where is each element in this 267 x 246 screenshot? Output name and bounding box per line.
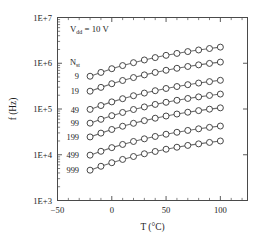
series-label-49: 49 [71, 106, 79, 115]
x-tick-label: 50 [162, 205, 171, 215]
series-marker-19 [207, 60, 213, 66]
series-marker-19 [87, 88, 93, 94]
series-marker-19 [109, 81, 115, 87]
series-marker-999 [98, 163, 104, 169]
series-marker-999 [174, 144, 180, 150]
series-marker-19 [185, 63, 191, 69]
series-marker-19 [120, 77, 126, 83]
series-marker-499 [174, 129, 180, 135]
frequency-vs-temperature-chart: −500501001E+31E+41E+51E+61E+7T (°C)f (Hz… [0, 0, 267, 246]
series-marker-499 [196, 126, 202, 132]
x-tick-label: 100 [214, 205, 227, 215]
series-marker-199 [174, 111, 180, 117]
series-marker-9 [217, 44, 223, 50]
series-marker-49 [196, 80, 202, 86]
series-marker-499 [98, 148, 104, 154]
y-axis-title: f (Hz) [8, 98, 19, 121]
series-label-999: 999 [66, 166, 79, 175]
series-marker-99 [217, 91, 223, 97]
series-marker-99 [87, 120, 93, 126]
series-marker-9 [120, 63, 126, 69]
series-marker-9 [163, 52, 169, 58]
series-group-label: Nst [70, 58, 80, 68]
series-marker-19 [196, 62, 202, 68]
x-axis-title: T (°C) [140, 222, 164, 233]
series-marker-49 [185, 82, 191, 88]
series-marker-999 [141, 151, 147, 157]
series-marker-9 [98, 69, 104, 75]
y-tick-label: 1E+3 [33, 196, 52, 206]
series-marker-199 [207, 106, 213, 112]
series-label-9: 9 [75, 72, 79, 81]
series-marker-49 [152, 88, 158, 94]
series-marker-499 [87, 152, 93, 158]
series-marker-99 [152, 101, 158, 107]
series-marker-499 [217, 123, 223, 129]
series-marker-999 [196, 141, 202, 147]
series-marker-499 [120, 141, 126, 147]
series-marker-49 [174, 84, 180, 90]
series-label-99: 99 [71, 119, 79, 128]
series-marker-999 [217, 138, 223, 144]
x-tick-label: 0 [110, 205, 114, 215]
series-marker-199 [131, 120, 137, 126]
series-marker-999 [152, 148, 158, 154]
series-marker-999 [131, 154, 137, 160]
axes-group: −500501001E+31E+41E+51E+61E+7T (°C)f (Hz… [8, 13, 248, 233]
series-marker-19 [152, 69, 158, 75]
series-marker-9 [109, 66, 115, 72]
series-marker-99 [207, 92, 213, 98]
series-marker-99 [196, 94, 202, 100]
series-marker-999 [87, 167, 93, 173]
series-marker-99 [141, 104, 147, 110]
series-marker-99 [131, 107, 137, 113]
series-marker-19 [131, 75, 137, 81]
series-marker-99 [185, 95, 191, 101]
y-tick-label: 1E+4 [33, 150, 52, 160]
series-marker-499 [131, 138, 137, 144]
series-marker-199 [120, 123, 126, 129]
series-marker-49 [141, 90, 147, 96]
series-marker-99 [109, 113, 115, 119]
series-marker-9 [141, 57, 147, 63]
series-marker-19 [163, 67, 169, 73]
series-marker-199 [196, 108, 202, 114]
series-label-499: 499 [66, 151, 79, 160]
series-marker-99 [174, 97, 180, 103]
series-marker-999 [207, 139, 213, 145]
series-marker-499 [109, 145, 115, 151]
y-tick-label: 1E+6 [33, 58, 52, 68]
series-marker-999 [163, 146, 169, 152]
series-label-19: 19 [71, 87, 79, 96]
series-marker-9 [131, 60, 137, 66]
series-marker-19 [217, 59, 223, 65]
series-marker-49 [207, 79, 213, 85]
series-marker-999 [109, 160, 115, 166]
series-marker-19 [141, 72, 147, 78]
series-marker-49 [109, 99, 115, 105]
series-marker-499 [163, 131, 169, 137]
series-marker-9 [152, 55, 158, 61]
series-marker-199 [98, 130, 104, 136]
series-marker-19 [174, 65, 180, 71]
series-marker-49 [87, 106, 93, 112]
series-marker-9 [174, 50, 180, 56]
series-marker-49 [131, 93, 137, 99]
y-tick-label: 1E+7 [33, 13, 52, 23]
series-marker-499 [207, 124, 213, 130]
series-label-199: 199 [66, 133, 79, 142]
series-marker-499 [152, 133, 158, 139]
series-marker-199 [163, 113, 169, 119]
series-marker-499 [141, 136, 147, 142]
data-series-group [87, 44, 223, 173]
series-marker-9 [87, 73, 93, 79]
series-marker-199 [109, 126, 115, 132]
series-marker-499 [185, 127, 191, 133]
series-marker-199 [217, 105, 223, 111]
series-marker-99 [163, 99, 169, 105]
series-marker-49 [217, 77, 223, 83]
series-marker-199 [87, 134, 93, 140]
vdd-annotation: Vdd = 10 V [70, 24, 110, 35]
series-marker-9 [185, 49, 191, 55]
series-marker-49 [120, 96, 126, 102]
